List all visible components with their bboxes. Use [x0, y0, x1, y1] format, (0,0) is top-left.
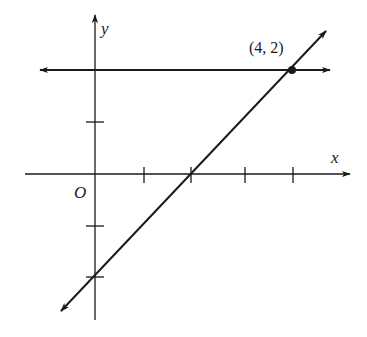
y-axis-label: y [99, 19, 109, 38]
x-axis-ticks [144, 167, 293, 183]
x-axis-label: x [330, 148, 339, 167]
slanted-line [61, 31, 326, 311]
coordinate-diagram: y x O (4, 2) [0, 0, 367, 337]
point-label: (4, 2) [249, 39, 284, 57]
origin-label: O [74, 183, 86, 202]
diagram-canvas: y x O (4, 2) [0, 0, 367, 337]
intersection-point [288, 66, 296, 74]
